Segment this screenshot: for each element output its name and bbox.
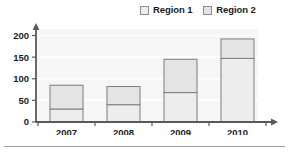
y-axis-labels: 050100150200 <box>13 30 29 128</box>
legend-label-region-2: Region 2 <box>216 5 255 15</box>
bar-segment-region-1-2010 <box>221 58 254 122</box>
bar-segment-region-1-2008 <box>107 105 140 122</box>
y-axis-arrow-icon <box>33 23 40 30</box>
bar-segment-region-2-2010 <box>221 39 254 58</box>
x-tick-label-2007: 2007 <box>56 127 77 135</box>
y-tick-label: 150 <box>13 52 29 63</box>
bar-segment-region-1-2007 <box>50 109 83 122</box>
legend-swatch-region-1-icon <box>140 6 149 15</box>
y-tick-label: 200 <box>13 30 29 41</box>
legend-swatch-region-2-icon <box>203 6 212 15</box>
bar-segment-region-2-2009 <box>164 59 197 92</box>
x-tick-label-2008: 2008 <box>113 127 134 135</box>
x-tick-label-2010: 2010 <box>227 127 248 135</box>
y-tick-label: 100 <box>13 73 29 84</box>
bar-segment-region-2-2008 <box>107 87 140 105</box>
bar-segment-region-2-2007 <box>50 85 83 109</box>
chart-legend: Region 1 Region 2 <box>140 3 285 17</box>
legend-label-region-1: Region 1 <box>153 5 192 15</box>
x-axis-labels: 2007200820092010 <box>56 127 248 135</box>
legend-entry-region-2: Region 2 <box>203 5 255 15</box>
plot-area: 050100150200 2007200820092010 <box>0 20 289 135</box>
bar-segment-region-1-2009 <box>164 93 197 122</box>
y-tick-label: 50 <box>18 95 29 106</box>
chart-figure: Region 1 Region 2 050100150200 <box>0 0 289 154</box>
bottom-divider <box>4 146 285 147</box>
legend-entry-region-1: Region 1 <box>140 5 192 15</box>
chart-svg: 050100150200 2007200820092010 <box>0 20 289 135</box>
x-axis-arrow-icon <box>271 119 278 126</box>
x-tick-label-2009: 2009 <box>170 127 191 135</box>
y-tick-label: 0 <box>24 116 29 127</box>
